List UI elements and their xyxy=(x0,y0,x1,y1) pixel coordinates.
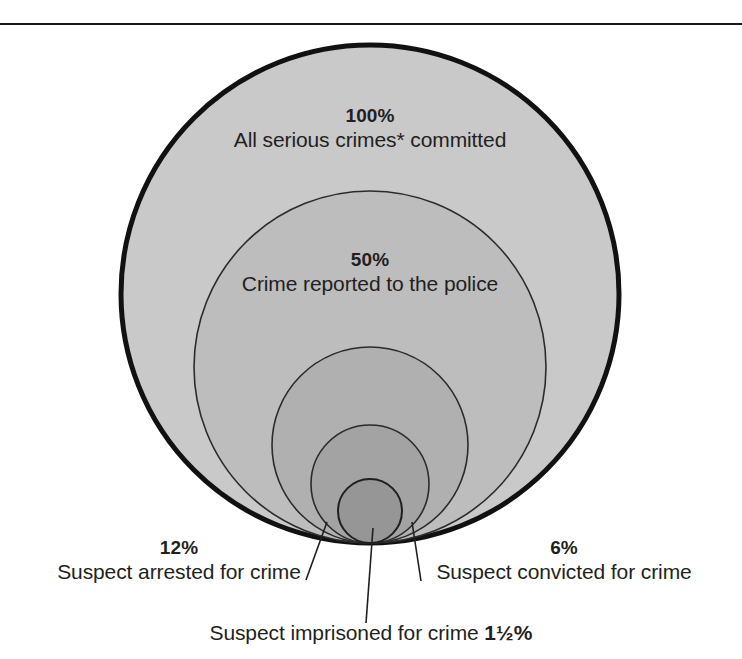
label-all-crimes-description: All serious crimes* committed xyxy=(151,127,589,153)
crime-funnel-figure: 100% All serious crimes* committed 50% C… xyxy=(0,0,742,659)
label-reported: 50% Crime reported to the police xyxy=(191,248,549,297)
circle-imprisoned xyxy=(338,479,402,543)
label-convicted-description: Suspect convicted for crime xyxy=(404,559,724,585)
label-reported-percent: 50% xyxy=(191,248,549,271)
label-arrested-description: Suspect arrested for crime xyxy=(19,559,339,585)
label-imprisoned-percent: 1½% xyxy=(484,621,532,644)
label-arrested: 12% Suspect arrested for crime xyxy=(19,536,339,585)
label-all-crimes: 100% All serious crimes* committed xyxy=(151,104,589,153)
label-convicted-percent: 6% xyxy=(404,536,724,559)
label-reported-description: Crime reported to the police xyxy=(191,271,549,297)
label-arrested-percent: 12% xyxy=(19,536,339,559)
label-all-crimes-percent: 100% xyxy=(151,104,589,127)
label-convicted: 6% Suspect convicted for crime xyxy=(404,536,724,585)
label-imprisoned-description: Suspect imprisoned for crime xyxy=(209,621,484,644)
label-imprisoned: Suspect imprisoned for crime 1½% xyxy=(171,620,571,646)
